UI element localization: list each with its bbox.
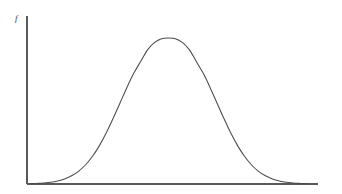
normal-distribution-curve (30, 38, 307, 184)
chart-figure: f (0, 0, 342, 194)
y-axis-label: f (15, 13, 19, 23)
plot-area: f (0, 0, 342, 194)
